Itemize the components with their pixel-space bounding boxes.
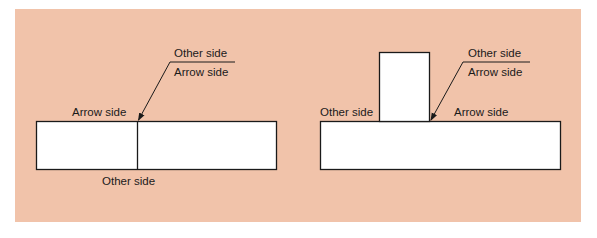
weld-symbol-diagram: Other side Arrow side Arrow side Other s… (0, 0, 597, 238)
left-other-side-label: Other side (102, 175, 155, 187)
left-leader-arrow-side-label: Arrow side (174, 66, 228, 78)
left-arrow-side-label: Arrow side (72, 106, 126, 118)
vertical-plate (380, 53, 430, 122)
base-plate (321, 122, 561, 170)
t-joint-diagram: Other side Arrow side Other side Arrow s… (320, 47, 561, 170)
left-plate-pair (37, 122, 277, 170)
right-leader-arrow-side-label: Arrow side (468, 66, 522, 78)
right-other-side-label: Other side (320, 106, 373, 118)
left-leader-other-side-label: Other side (174, 47, 227, 59)
right-arrow-side-label: Arrow side (454, 106, 508, 118)
right-leader-other-side-label: Other side (468, 47, 521, 59)
butt-joint-diagram: Other side Arrow side Arrow side Other s… (37, 47, 277, 187)
